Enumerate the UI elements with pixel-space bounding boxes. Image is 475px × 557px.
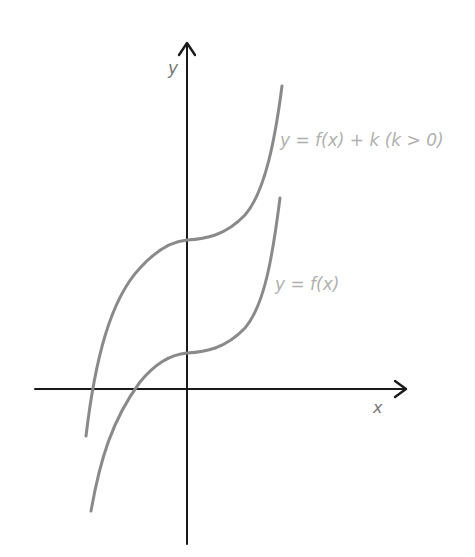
curve-original — [91, 198, 280, 511]
x-axis-label: x — [373, 398, 382, 417]
y-axis-label: y — [168, 58, 178, 78]
curve-original-label: y = f(x) — [275, 274, 339, 294]
graph-canvas — [0, 0, 475, 557]
curve-shifted-label: y = f(x) + k (k > 0) — [280, 130, 444, 150]
curve-shifted — [86, 86, 282, 436]
